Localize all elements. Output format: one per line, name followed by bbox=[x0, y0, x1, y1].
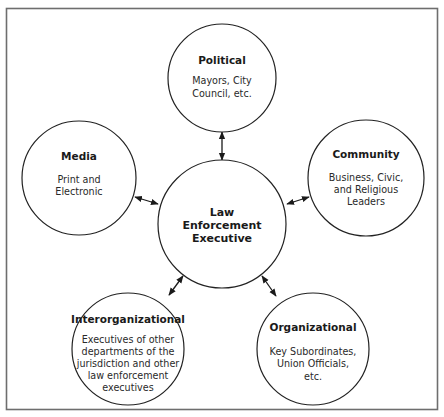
node-political: Political Mayors, City Council, etc. bbox=[168, 24, 276, 132]
node-interorganizational: Interorganizational Executives of other … bbox=[71, 293, 185, 405]
node-organizational-title: Organizational bbox=[270, 321, 357, 333]
node-center-title-line: Executive bbox=[192, 232, 252, 245]
node-political-desc-line: Council, etc. bbox=[192, 88, 251, 99]
arrow-center-media bbox=[135, 197, 158, 204]
node-political-title: Political bbox=[198, 54, 246, 66]
node-community-desc-line: Leaders bbox=[347, 196, 385, 207]
node-interorganizational-title: Interorganizational bbox=[71, 313, 185, 325]
node-center-title-line: Law bbox=[210, 206, 235, 219]
node-media: Media Print and Electronic bbox=[22, 121, 136, 235]
node-organizational-desc-line: Key Subordinates, bbox=[270, 346, 357, 357]
node-organizational: Organizational Key Subordinates, Union O… bbox=[257, 293, 369, 405]
node-community-desc-line: and Religious bbox=[334, 184, 398, 195]
node-interorganizational-desc-line: executives bbox=[102, 382, 153, 393]
node-community-desc-line: Business, Civic, bbox=[329, 172, 403, 183]
node-interorganizational-desc-line: departments of the bbox=[82, 346, 175, 357]
node-political-desc-line: Mayors, City bbox=[192, 75, 252, 86]
node-media-title: Media bbox=[61, 150, 97, 162]
arrow-center-organizational bbox=[262, 276, 276, 296]
node-center: Law Enforcement Executive bbox=[158, 160, 286, 288]
node-interorganizational-desc-line: law enforcement bbox=[88, 370, 169, 381]
node-media-desc-line: Electronic bbox=[55, 186, 102, 197]
arrow-center-interorganizational bbox=[169, 276, 183, 295]
node-organizational-desc-line: etc. bbox=[304, 371, 322, 382]
node-media-desc-line: Print and bbox=[57, 174, 100, 185]
node-interorganizational-desc-line: jurisdiction and other bbox=[76, 358, 180, 369]
arrow-center-community bbox=[287, 197, 309, 204]
node-interorganizational-desc-line: Executives of other bbox=[82, 334, 175, 345]
node-center-title-line: Enforcement bbox=[182, 219, 261, 232]
node-community: Community Business, Civic, and Religious… bbox=[308, 120, 424, 236]
stakeholder-diagram: Political Mayors, City Council, etc. Med… bbox=[0, 0, 444, 417]
node-community-title: Community bbox=[332, 148, 399, 160]
node-organizational-desc-line: Union Officials, bbox=[277, 358, 349, 369]
